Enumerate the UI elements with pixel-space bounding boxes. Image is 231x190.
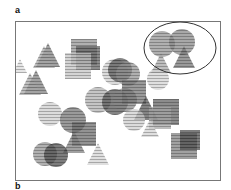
square-stripe-texture — [180, 130, 200, 150]
circle-stripe-texture — [38, 102, 62, 126]
circle-stripe-texture — [44, 143, 68, 167]
triangle-stripe-texture — [87, 143, 109, 165]
square-stripe-texture — [122, 80, 146, 104]
circle-stripe-texture — [123, 109, 145, 131]
shapes-canvas — [0, 0, 231, 190]
circle-stripe-texture — [147, 68, 169, 90]
triangle-stripe-texture — [13, 59, 27, 73]
square-stripe-texture — [65, 53, 91, 79]
panel-label-b: b — [15, 182, 21, 190]
